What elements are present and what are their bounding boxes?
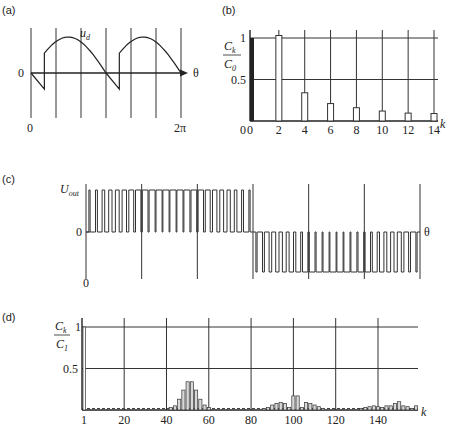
panel-b-y-tick-label: 0 bbox=[240, 123, 246, 137]
panel-d-bar bbox=[317, 407, 320, 410]
panel-c-x-label: θ bbox=[424, 225, 430, 239]
panel-b-x-ticks: 02468101214 bbox=[247, 123, 440, 137]
panel-d-x-tick-label: 80 bbox=[245, 413, 257, 427]
panel-d-bar bbox=[359, 408, 362, 410]
panel-d-bar bbox=[186, 382, 189, 410]
panel-d-bar bbox=[262, 408, 265, 410]
panel-d-bar bbox=[414, 406, 417, 410]
panel-b-bar bbox=[431, 114, 437, 121]
panel-d-bar bbox=[178, 399, 181, 410]
panel-b: (b) 02468101214 00.51 k Ck C0 bbox=[222, 4, 446, 137]
panel-d-bar bbox=[173, 406, 176, 410]
panel-a-axis-arrow-icon bbox=[180, 70, 188, 77]
panel-d-bar bbox=[296, 396, 299, 410]
svg-text:C1: C1 bbox=[56, 337, 68, 353]
panel-d-bar bbox=[389, 406, 392, 410]
panel-d-x-tick-label: 120 bbox=[327, 413, 345, 427]
panel-d-x-tick-label: 60 bbox=[203, 413, 215, 427]
panel-b-y-label: Ck C0 bbox=[223, 39, 241, 73]
panel-a-x-tick-0: 0 bbox=[27, 121, 33, 135]
panel-d-x-label: k bbox=[421, 405, 427, 419]
panel-c-x-tick-0: 0 bbox=[83, 276, 89, 290]
panel-a-y-zero-label: 0 bbox=[18, 66, 24, 80]
panel-d-bar bbox=[169, 408, 172, 410]
panel-c-label: (c) bbox=[2, 173, 15, 185]
panel-b-bar bbox=[405, 113, 411, 121]
panel-d-bar bbox=[305, 403, 308, 410]
panel-d-x-tick-label: 40 bbox=[160, 413, 172, 427]
panel-d-bar bbox=[288, 408, 291, 410]
panel-b-bar bbox=[353, 108, 359, 121]
svg-text:C0: C0 bbox=[224, 57, 236, 73]
panel-c-y-label: Uout bbox=[60, 182, 80, 198]
panel-d-bar bbox=[279, 403, 282, 410]
panel-d-bar bbox=[300, 408, 303, 410]
panel-d-bar bbox=[402, 406, 405, 410]
panel-b-bar bbox=[276, 36, 282, 121]
panel-b-x-tick-label: 8 bbox=[353, 123, 359, 137]
panel-b-x-tick-label: 10 bbox=[376, 123, 388, 137]
panel-d-x-tick-label: 100 bbox=[284, 413, 302, 427]
panel-d-bar bbox=[195, 390, 198, 410]
panel-d-bar bbox=[83, 327, 86, 410]
panel-d-x-tick-label: 1 bbox=[81, 413, 87, 427]
panel-d-bar bbox=[393, 403, 396, 410]
panel-b-y-tick-label: 1 bbox=[240, 31, 246, 45]
figure: (a) θ 0 0 2π ud (b) 02468101214 00.51 k … bbox=[0, 0, 457, 445]
panel-d-bar bbox=[364, 408, 367, 410]
panel-d-bar bbox=[203, 405, 206, 410]
panel-b-label: (b) bbox=[222, 4, 235, 16]
svg-text:Ck: Ck bbox=[55, 319, 67, 335]
panel-d-bar bbox=[376, 407, 379, 410]
panel-d-y-tick-label: 0.5 bbox=[63, 362, 78, 376]
panel-d-bar bbox=[271, 405, 274, 410]
panel-d-bar bbox=[190, 382, 193, 410]
panel-b-x-tick-label: 0 bbox=[247, 123, 253, 137]
panel-d-bar bbox=[292, 396, 295, 410]
panel-d: (d) 120406080100120140 0.51 k Ck C1 bbox=[2, 311, 427, 427]
panel-a-x-tick-2pi: 2π bbox=[174, 121, 186, 135]
panel-b-x-tick-label: 14 bbox=[428, 123, 440, 137]
panel-d-bar bbox=[372, 406, 375, 410]
panel-d-bar bbox=[398, 402, 401, 410]
panel-a: (a) θ 0 0 2π ud bbox=[2, 4, 199, 135]
panel-d-x-ticks: 120406080100120140 bbox=[81, 413, 387, 427]
panel-d-bar bbox=[321, 408, 324, 410]
panel-b-bar bbox=[250, 38, 254, 121]
panel-d-bar bbox=[381, 408, 384, 410]
panel-d-bar bbox=[207, 408, 210, 410]
panel-d-bar bbox=[410, 408, 413, 410]
panel-d-bar bbox=[275, 403, 278, 410]
panel-d-bar bbox=[368, 407, 371, 410]
panel-d-bar bbox=[406, 407, 409, 410]
panel-d-label: (d) bbox=[2, 311, 15, 323]
panel-c: (c) Uout 0 0 θ bbox=[2, 173, 430, 290]
panel-d-bar bbox=[385, 406, 388, 410]
panel-b-x-tick-label: 4 bbox=[302, 123, 308, 137]
panel-d-bar bbox=[182, 390, 185, 410]
panel-b-bars bbox=[250, 36, 437, 121]
panel-b-y-tick-label: 0.5 bbox=[231, 73, 246, 87]
panel-c-y-zero-label: 0 bbox=[76, 225, 82, 239]
panel-b-x-tick-label: 2 bbox=[276, 123, 282, 137]
panel-d-x-tick-label: 140 bbox=[369, 413, 387, 427]
panel-b-x-tick-label: 6 bbox=[328, 123, 334, 137]
panel-d-bar bbox=[313, 405, 316, 410]
panel-d-bar bbox=[266, 408, 269, 410]
panel-a-x-label: θ bbox=[193, 66, 199, 80]
panel-b-bar bbox=[379, 111, 385, 121]
panel-b-x-tick-label: 12 bbox=[402, 123, 414, 137]
panel-a-label: (a) bbox=[2, 4, 15, 16]
panel-d-x-tick-label: 20 bbox=[118, 413, 130, 427]
panel-d-bar bbox=[309, 403, 312, 410]
panel-d-bar bbox=[283, 403, 286, 410]
panel-d-y-label: Ck C1 bbox=[54, 319, 70, 353]
panel-d-grid bbox=[82, 318, 418, 410]
panel-b-bar bbox=[302, 93, 308, 121]
panel-a-curve-label: ud bbox=[80, 26, 91, 42]
panel-d-y-tick-label: 1 bbox=[75, 320, 81, 334]
panel-b-x-label: k bbox=[440, 117, 446, 131]
svg-text:Ck: Ck bbox=[224, 39, 236, 55]
panel-b-bar bbox=[328, 104, 334, 121]
panel-d-bar bbox=[199, 399, 202, 410]
